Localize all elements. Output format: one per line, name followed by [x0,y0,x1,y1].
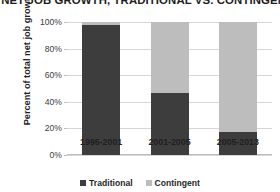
y-axis-title: Percent of total net job growth [22,0,32,129]
y-tick-mark [64,22,67,23]
legend-item-contingent[interactable]: Contingent [146,178,200,188]
y-tick-mark [64,49,67,50]
bar-segment-contingent[interactable] [82,22,120,25]
y-tick-label: 0% [50,150,62,160]
y-tick-label: 40% [45,97,62,107]
bar-segment-contingent[interactable] [151,22,189,92]
y-tick-mark [64,75,67,76]
legend-item-traditional[interactable]: Traditional [80,178,132,188]
plot-area: 0%20%40%60%80%100% [67,22,272,155]
bar-group[interactable] [82,22,120,155]
y-tick-label: 100% [40,17,62,27]
y-tick-label: 20% [45,123,62,133]
x-tick-label: 2005-2013 [192,137,280,147]
bar-group[interactable] [219,22,257,155]
chart-legend: TraditionalContingent [0,178,280,188]
bar-segment-traditional[interactable] [82,25,120,155]
y-tick-mark [64,155,67,156]
bar-segment-contingent[interactable] [219,22,257,132]
y-tick-mark [64,102,67,103]
legend-label: Contingent [155,178,200,188]
chart-container: : NET JOB GROWTH, TRADITIONAL VS. CONTIN… [0,0,280,192]
y-tick-label: 80% [45,44,62,54]
y-tick-label: 60% [45,70,62,80]
y-tick-mark [64,128,67,129]
legend-swatch-icon [80,180,86,186]
chart-title: : NET JOB GROWTH, TRADITIONAL VS. CONTIN… [0,0,280,6]
bar-group[interactable] [151,22,189,155]
gridline [67,155,272,156]
legend-swatch-icon [146,180,152,186]
legend-label: Traditional [89,178,132,188]
